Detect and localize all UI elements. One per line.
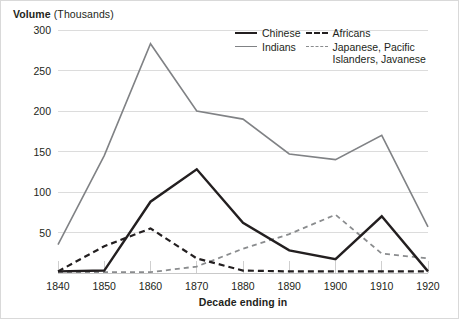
x-tick-label: 1840 [46, 280, 69, 292]
line-chart-svg [58, 30, 428, 273]
y-axis-title-strong: Volume [13, 8, 51, 20]
legend-swatch-indians [235, 41, 257, 53]
chart-legend: Chinese Africans Indians Japanese, Pacif… [235, 27, 458, 65]
x-tick-label: 1880 [231, 280, 254, 292]
y-tick-label: 200 [33, 105, 51, 117]
series-line-chinese [58, 169, 428, 271]
y-tick-label: 250 [33, 65, 51, 77]
x-tick-label: 1870 [185, 280, 208, 292]
y-tick-label: 100 [33, 186, 51, 198]
series-line-indians [58, 44, 428, 245]
x-tick-label: 1910 [370, 280, 393, 292]
y-axis-title-unit: (Thousands) [51, 8, 114, 20]
x-tick-label: 1860 [139, 280, 162, 292]
gridlines [58, 30, 428, 273]
x-tick-label: 1900 [324, 280, 347, 292]
y-tick-label: 300 [33, 24, 51, 36]
x-axis-label: Decade ending in [58, 296, 428, 308]
chart-figure: Volume (Thousands) 50100150200250300 184… [0, 0, 459, 319]
x-tick-label: 1890 [278, 280, 301, 292]
y-tick-label: 150 [33, 146, 51, 158]
plot-area: 50100150200250300 1840185018601870188018… [58, 30, 428, 273]
series-lines [58, 44, 428, 272]
legend-label-africans: Africans [333, 27, 458, 39]
legend-swatch-chinese [235, 27, 257, 39]
y-axis-title: Volume (Thousands) [13, 8, 114, 20]
y-tick-label: 50 [39, 227, 51, 239]
legend-label-japanese: Japanese, Pacific Islanders, Javanese [333, 41, 458, 65]
legend-swatch-africans [306, 27, 328, 39]
legend-label-chinese: Chinese [262, 27, 301, 39]
legend-swatch-japanese [306, 41, 328, 53]
x-tick-label: 1850 [93, 280, 116, 292]
legend-label-indians: Indians [262, 41, 301, 53]
x-tick-label: 1920 [416, 280, 439, 292]
